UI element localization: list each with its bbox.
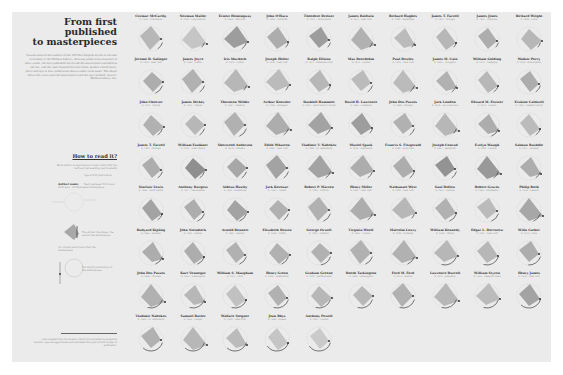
author-birth-info: b. 1912 · Quincy [130, 104, 172, 107]
radar-chart-icon [260, 193, 294, 227]
author-card: Booth Tarkingtonb. 1869 · Indianapolis [340, 271, 382, 314]
author-card: John Dos Passosb. 1896 · Chicago [130, 271, 172, 314]
radar-chart-icon [218, 108, 252, 142]
radar-chart-icon [386, 279, 420, 313]
author-birth-info: b. 1872 · London [340, 61, 382, 64]
author-birth-info: b. 1914 · Oklahoma City [298, 61, 340, 64]
author-birth-info: b. 1916 · Birmingham [508, 61, 550, 64]
legend-arc-caption: Arc shows years lived after the masterpi… [58, 246, 98, 253]
radar-chart-icon [134, 22, 168, 56]
author-birth-info: b. 1876 · Camden [214, 147, 256, 150]
author-card: Aldous Huxleyb. 1894 · Godalming [214, 185, 256, 228]
author-card: Iris Murdochb. 1919 · Dublin [214, 57, 256, 100]
author-card: Ford M. Fordb. 1873 · Merton [382, 271, 424, 314]
author-card: David H. Lawrenceb. 1885 · Eastwood [340, 100, 382, 143]
author-birth-info: b. 1918 · Edinburgh [340, 147, 382, 150]
radar-chart-icon [428, 108, 462, 142]
author-card: Salman Rushdieb. 1947 · Bombay [508, 143, 550, 186]
author-card: James Baldwinb. 1924 · New York [340, 14, 382, 57]
radar-chart-icon [218, 151, 252, 185]
radar-chart-icon [512, 279, 546, 313]
author-birth-info: b. 1925 · Newport News [466, 275, 508, 278]
author-birth-info: b. 1910 · New York [382, 61, 424, 64]
radar-chart-icon [344, 65, 378, 99]
radar-chart-icon [386, 65, 420, 99]
author-birth-info: b. 1928 · Albany [424, 232, 466, 235]
author-card: Elizabeth Bowenb. 1899 · Dublin [256, 228, 298, 271]
radar-chart-icon [512, 22, 546, 56]
radar-chart-icon [218, 279, 252, 313]
radar-chart-icon [344, 151, 378, 185]
author-birth-info: b. 1890 · Roseau [256, 318, 298, 321]
radar-chart-icon [134, 65, 168, 99]
author-card: Sinclair Lewisb. 1885 · Sauk Centre [130, 185, 172, 228]
radar-chart-icon [218, 193, 252, 227]
author-card: Anthony Powellb. 1905 · London [298, 314, 340, 357]
author-birth-info: b. 1896 · Saint Paul [382, 147, 424, 150]
author-card: George Orwellb. 1903 · Motihari [298, 228, 340, 271]
radar-chart-icon [512, 151, 546, 185]
title-line-3: to masterpieces [17, 37, 117, 47]
radar-chart-icon [470, 193, 504, 227]
author-card: Rudyard Kiplingb. 1865 · Bombay [130, 228, 172, 271]
author-card: Henry Jamesb. 1843 · New York [508, 271, 550, 314]
legend-age-label: Age at first publication [84, 174, 118, 177]
legend-shape-caption: The darker the shape, the earlier the ma… [82, 231, 118, 238]
footnote-divider [61, 333, 117, 334]
radar-chart-icon [176, 279, 210, 313]
author-birth-info: b. 1904 · Chicago [130, 147, 172, 150]
author-birth-info: b. 1903 · New York [382, 189, 424, 192]
author-card: James T. Farrellb. 1904 · Chicago [130, 143, 172, 186]
author-birth-info: b. 1882 · Dublin [172, 61, 214, 64]
author-card: Thornton Wilderb. 1897 · Madison [214, 100, 256, 143]
author-card: Vladimir V. Nabokovb. 1899 · St. Petersb… [298, 143, 340, 186]
author-birth-info: b. 1899 · St. Petersburg [130, 318, 172, 321]
author-card: Jerome D. Salingerb. 1919 · New York [130, 57, 172, 100]
author-birth-info: b. 1892 · Annapolis [424, 61, 466, 64]
radar-chart-icon [176, 151, 210, 185]
author-card: Norman Mailerb. 1923 · Long Branch [172, 14, 214, 57]
author-birth-info: b. 1923 · Atlanta [172, 104, 214, 107]
author-card: Richard Wrightb. 1908 · Roxie [508, 14, 550, 57]
author-card: William Goldingb. 1911 · Newquay [466, 57, 508, 100]
author-card: Muriel Sparkb. 1918 · Edinburgh [340, 143, 382, 186]
legend-years-label: Years between first novel and masterpiec… [84, 183, 118, 190]
author-birth-info: b. 1873 · Merton [382, 275, 424, 278]
author-card: Edward M. Forsterb. 1879 · London [466, 100, 508, 143]
author-birth-info: b. 1896 · Chicago [382, 104, 424, 107]
author-card: Lawrence Durrellb. 1912 · Jalandhar [424, 271, 466, 314]
radar-chart-icon [134, 236, 168, 270]
author-card: William Faulknerb. 1897 · New Albany [172, 143, 214, 186]
radar-chart-icon [302, 193, 336, 227]
author-birth-info: b. 1905 · Budapest [256, 104, 298, 107]
author-birth-info: b. 1857 · Berdychiv [424, 147, 466, 150]
author-birth-info: b. 1905 · Tewkesbury [256, 275, 298, 278]
author-card: Edgar L. Doctorowb. 1931 · New York [466, 228, 508, 271]
author-card: Robert P. Warrenb. 1905 · Guthrie [298, 185, 340, 228]
radar-chart-icon [512, 236, 546, 270]
author-birth-info: b. 1917 · Manchester [172, 189, 214, 192]
author-card: John O'Harab. 1905 · Pottsville [256, 14, 298, 57]
author-card: Jack Kerouacb. 1922 · Lowell [256, 185, 298, 228]
author-card: Willa Catherb. 1873 · Gore [508, 228, 550, 271]
author-birth-info: b. 1843 · New York [508, 275, 550, 278]
author-card: Joseph Hellerb. 1923 · New York [256, 57, 298, 100]
radar-chart-icon [302, 22, 336, 56]
author-card: James M. Cainb. 1892 · Annapolis [424, 57, 466, 100]
radar-chart-icon [218, 322, 252, 356]
author-card: Ralph Ellisonb. 1914 · Oklahoma City [298, 57, 340, 100]
author-card: Samuel Butlerb. 1835 · Langar [172, 314, 214, 357]
radar-chart-icon [470, 151, 504, 185]
author-card: Walker Percyb. 1916 · Birmingham [508, 57, 550, 100]
author-card: Nathanael Westb. 1903 · New York [382, 185, 424, 228]
radar-chart-icon [386, 22, 420, 56]
author-card: John Dos Passosb. 1896 · Chicago [382, 100, 424, 143]
radar-chart-icon [302, 151, 336, 185]
author-birth-info: b. 1912 · Jalandhar [424, 275, 466, 278]
author-birth-info: b. 1931 · New York [466, 232, 508, 235]
radar-chart-icon [428, 22, 462, 56]
author-birth-info: b. 1885 · Sauk Centre [130, 189, 172, 192]
radar-chart-icon [470, 279, 504, 313]
radar-chart-icon [260, 108, 294, 142]
author-card: Joseph Conradb. 1857 · Berdychiv [424, 143, 466, 186]
